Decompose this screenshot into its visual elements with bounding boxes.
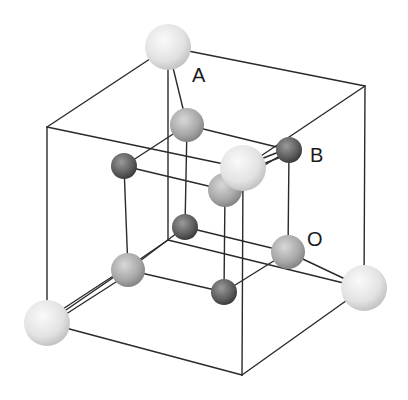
bonds [46,47,364,325]
outer-cube [47,47,365,375]
atom-O [170,108,204,142]
atom-A [24,300,70,346]
outer-edge [242,168,243,375]
atom-O [111,253,145,287]
outer-edge [47,323,242,375]
outer-edge [364,86,365,288]
atom-B [172,214,198,240]
atom-B [111,153,137,179]
label-A: A [192,64,206,86]
atom-B [211,279,237,305]
atom-O [271,235,305,269]
atom-A [341,265,387,311]
inner-cube [124,125,289,292]
atom-A [145,24,191,70]
crystal-structure-diagram: A B O [0,0,408,400]
label-O: O [307,228,323,250]
label-B: B [310,144,323,166]
atom-B [276,137,302,163]
atom-A [220,145,266,191]
outer-edge [47,127,243,168]
